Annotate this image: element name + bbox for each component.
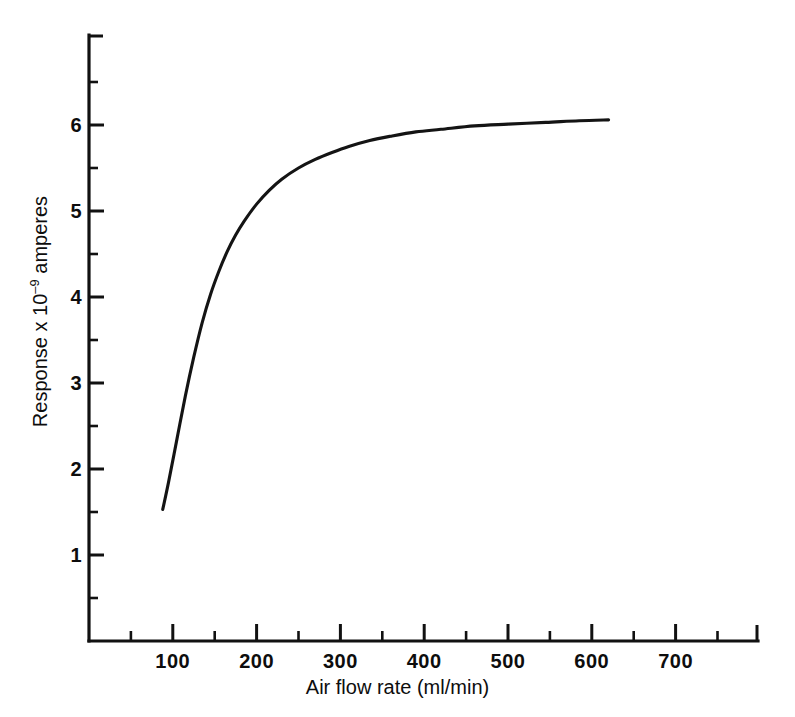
x-tick-label-600: 600 [574,650,609,673]
y-tick-label-1: 1 [52,544,82,567]
x-tick-label-300: 300 [323,650,358,673]
response-curve [163,120,609,510]
data-series-group [163,120,609,510]
y-tick-label-3: 3 [52,372,82,395]
axis-lines [89,35,758,641]
plot-canvas [0,0,795,717]
x-axis-ticks [131,624,718,641]
chart-figure: 123456 100200300400500600700 Air flow ra… [0,0,795,717]
y-tick-label-4: 4 [52,286,82,309]
x-tick-label-500: 500 [491,650,526,673]
y-tick-label-6: 6 [52,114,82,137]
x-axis-title: Air flow rate (ml/min) [0,676,795,699]
y-tick-label-2: 2 [52,458,82,481]
x-tick-label-200: 200 [239,650,274,673]
y-axis-title-suffix: amperes [29,196,51,279]
y-axis-ticks [89,82,104,598]
y-axis-title-prefix: Response x 10 [29,294,51,427]
y-axis-title-exponent: –9 [27,279,42,293]
x-tick-label-700: 700 [658,650,693,673]
y-tick-label-5: 5 [52,200,82,223]
x-tick-label-400: 400 [407,650,442,673]
x-tick-label-100: 100 [155,650,190,673]
y-axis-title: Response x 10–9 amperes [29,12,52,612]
